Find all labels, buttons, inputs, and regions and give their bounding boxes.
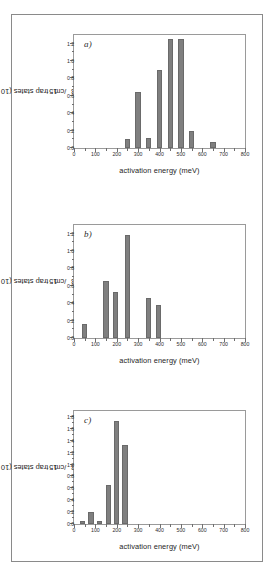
x-axis-minor-tick (85, 524, 86, 527)
chart-panel-a: trap states (1015/cm3) a) 0.00.20.40.60.… (11, 18, 263, 204)
x-axis-title-c: activation energy (meV) (73, 542, 246, 551)
bar (168, 39, 173, 148)
y-axis-tick-label: 1.0 (67, 248, 68, 254)
x-axis-tick-label: 0 (73, 151, 76, 157)
x-axis-minor-tick (213, 148, 214, 151)
y-axis-tick-label: 1.0 (67, 58, 68, 64)
bar (135, 92, 140, 148)
bar (103, 281, 108, 338)
y-axis-tick-label: 0.8 (67, 265, 68, 271)
x-axis-minor-tick (234, 338, 235, 341)
x-axis-tick-label: 100 (91, 341, 100, 347)
y-axis-tick-label: 1.4 (67, 438, 68, 444)
y-axis-minor-tick (72, 276, 75, 277)
bars-layer-c (74, 411, 245, 524)
x-axis-tick-label: 200 (112, 341, 121, 347)
y-axis-minor-tick (72, 138, 75, 139)
plot-area-c: c) 0.00.20.40.60.81.01.21.41.61.80100200… (73, 410, 246, 525)
plot-area-b: b) 0.00.20.40.60.81.01.20100200300400500… (73, 224, 246, 339)
y-axis-minor-tick (72, 328, 75, 329)
x-axis-tick-label: 800 (241, 527, 250, 533)
y-axis-tick-label: 0.6 (67, 283, 68, 289)
x-axis-minor-tick (106, 338, 107, 341)
plot-inner-a: a) 0.00.20.40.60.81.01.20100200300400500… (74, 35, 245, 148)
bars-layer-a (74, 35, 245, 148)
x-axis-minor-tick (149, 148, 150, 151)
y-axis-tick-label: 0.2 (67, 128, 68, 134)
y-axis-minor-tick (72, 259, 75, 260)
y-axis-tick-label: 1.2 (67, 41, 68, 47)
x-axis-tick-label: 300 (134, 151, 143, 157)
x-axis-minor-tick (127, 148, 128, 151)
x-axis-tick-label: 0 (73, 527, 76, 533)
y-axis-minor-tick (72, 69, 75, 70)
y-axis-minor-tick (72, 469, 75, 470)
y-axis-minor-tick (72, 458, 75, 459)
bar (82, 324, 87, 338)
bar (125, 235, 130, 338)
y-axis-minor-tick (72, 517, 75, 518)
y-axis-tick-label: 1.2 (67, 231, 68, 237)
x-axis-tick-label: 500 (177, 341, 186, 347)
y-axis-minor-tick (72, 51, 75, 52)
bar (113, 292, 118, 339)
x-axis-tick-label: 400 (155, 527, 164, 533)
y-axis-minor-tick (72, 481, 75, 482)
x-axis-title-b: activation energy (meV) (73, 356, 246, 365)
y-axis-minor-tick (72, 446, 75, 447)
x-axis-minor-tick (170, 148, 171, 151)
y-axis-tick-label: 1.0 (67, 462, 68, 468)
y-axis-tick-label: 0.8 (67, 473, 68, 479)
bar (114, 421, 119, 524)
x-axis-tick-label: 200 (112, 151, 121, 157)
bar (146, 138, 151, 148)
x-axis-minor-tick (234, 148, 235, 151)
x-axis-tick-label: 100 (91, 151, 100, 157)
y-axis-minor-tick (72, 505, 75, 506)
x-axis-minor-tick (149, 338, 150, 341)
bar (122, 445, 127, 524)
y-axis-tick-label: 0.4 (67, 110, 68, 116)
x-axis-minor-tick (213, 338, 214, 341)
y-axis-tick-label: 0.2 (67, 509, 68, 515)
x-axis-tick-label: 800 (241, 151, 250, 157)
x-axis-title-a: activation energy (meV) (73, 166, 246, 175)
bar (106, 485, 111, 524)
bar (156, 305, 161, 338)
bar (88, 512, 93, 524)
x-axis-minor-tick (106, 524, 107, 527)
chart-panel-c: trap states (1015/cm3) c) 0.00.20.40.60.… (11, 394, 263, 580)
y-axis-tick-label: 0.4 (67, 497, 68, 503)
y-axis-minor-tick (72, 121, 75, 122)
x-axis-minor-tick (106, 148, 107, 151)
bar (146, 298, 151, 338)
y-axis-minor-tick (72, 294, 75, 295)
x-axis-minor-tick (85, 338, 86, 341)
y-axis-title-b: trap states (1015/cm3) (37, 224, 49, 339)
y-axis-minor-tick (72, 241, 75, 242)
bar (157, 70, 162, 148)
y-axis-tick-label: 0.4 (67, 300, 68, 306)
x-axis-tick-label: 400 (155, 341, 164, 347)
x-axis-minor-tick (170, 338, 171, 341)
figure-page: trap states (1015/cm3) a) 0.00.20.40.60.… (0, 0, 276, 580)
x-axis-minor-tick (85, 148, 86, 151)
bar (97, 521, 102, 524)
bars-layer-b (74, 225, 245, 338)
x-axis-tick-label: 100 (91, 527, 100, 533)
y-axis-minor-tick (72, 86, 75, 87)
x-axis-tick-label: 500 (177, 527, 186, 533)
bar (125, 139, 130, 148)
plot-area-a: a) 0.00.20.40.60.81.01.20100200300400500… (73, 34, 246, 149)
y-axis-minor-tick (72, 104, 75, 105)
x-axis-minor-tick (127, 338, 128, 341)
x-axis-minor-tick (234, 524, 235, 527)
y-axis-title-c: trap states (1015/cm3) (37, 410, 49, 525)
x-axis-minor-tick (149, 524, 150, 527)
y-axis-tick-label: 0.2 (67, 318, 68, 324)
x-axis-tick-label: 400 (155, 151, 164, 157)
x-axis-tick-label: 600 (198, 341, 207, 347)
x-axis-minor-tick (170, 524, 171, 527)
x-axis-tick-label: 700 (219, 527, 228, 533)
y-axis-minor-tick (72, 311, 75, 312)
